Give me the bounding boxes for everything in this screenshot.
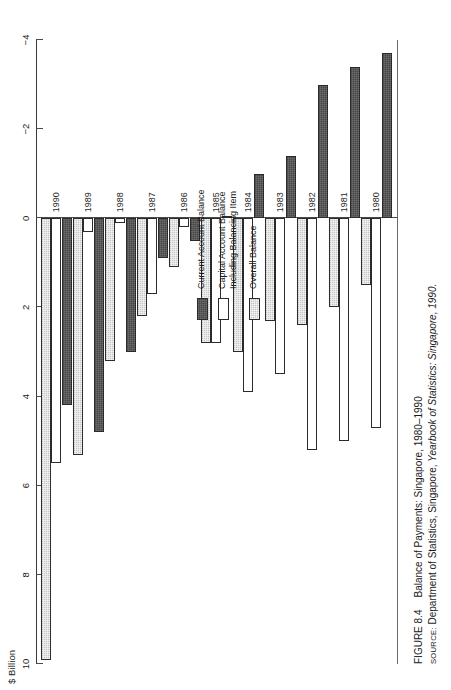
bar-capital-1986 (179, 218, 189, 227)
bar-group: 1988 (104, 40, 136, 664)
bar-group: 1981 (328, 40, 360, 664)
legend-label: Overall Balance (248, 225, 259, 289)
bar-current-1989 (94, 218, 104, 432)
category-label: 1986 (179, 192, 189, 212)
axis-tick-label: 0 (20, 216, 31, 221)
bar-current-1982 (318, 85, 328, 219)
bar-capital-1981 (339, 218, 349, 441)
category-label: 1987 (147, 192, 157, 212)
bar-current-1990 (62, 218, 72, 405)
bar-capital-1982 (307, 218, 317, 450)
bar-overall-1981 (329, 218, 339, 307)
caption-title-line: FIGURE 8.4Balance of Payments: Singapore… (412, 44, 426, 664)
category-label: 1990 (51, 192, 61, 212)
legend-item-capital: Capital Account Balance Including Balanc… (217, 90, 239, 320)
bar-capital-1988 (115, 218, 125, 222)
category-label: 1980 (371, 192, 381, 212)
axis-tick-label: 10 (20, 659, 31, 670)
bar-capital-1990 (51, 218, 61, 463)
source-text-italic: Yearbook of Statistics: Singapore, 1990. (427, 284, 438, 462)
rotated-figure-stage: $ Billion 1086420−2−4 198019811982198319… (0, 0, 451, 690)
bar-group: 1990 (40, 40, 72, 664)
chart-legend: Current Account BalanceCapital Account B… (196, 90, 269, 320)
bar-capital-1983 (275, 218, 285, 374)
bar-overall-1989 (73, 218, 83, 454)
caption-number: FIGURE 8.4 (413, 610, 424, 664)
bar-group: 1982 (296, 40, 328, 664)
bar-group: 1989 (72, 40, 104, 664)
bar-overall-1988 (105, 218, 115, 361)
source-text: Department of Statistics, Singapore, (427, 462, 438, 625)
bar-current-1980 (382, 53, 392, 218)
axis-title: $ Billion (6, 650, 17, 684)
bar-current-1981 (350, 67, 360, 219)
bar-capital-1987 (147, 218, 157, 294)
bar-overall-1986 (169, 218, 179, 267)
legend-label: Current Account Balance (196, 189, 207, 289)
bar-overall-1987 (137, 218, 147, 316)
category-label: 1982 (307, 192, 317, 212)
bar-overall-1982 (297, 218, 307, 325)
value-axis-line (36, 40, 37, 664)
bar-current-1983 (286, 156, 296, 218)
legend-swatch-current (197, 298, 208, 320)
caption-title: Balance of Payments: Singapore, 1980–199… (413, 396, 424, 597)
bar-capital-1989 (83, 218, 93, 231)
category-label: 1983 (275, 192, 285, 212)
bar-current-1987 (158, 218, 168, 258)
axis-tick-label: 8 (20, 572, 31, 577)
axis-tick-label: −2 (20, 124, 31, 135)
bar-overall-1990 (41, 218, 51, 659)
caption-source-line: SOURCE: Department of Statistics, Singap… (426, 44, 441, 664)
axis-tick-label: 6 (20, 483, 31, 488)
axis-tick-label: 2 (20, 305, 31, 310)
bar-current-1988 (126, 218, 136, 352)
bar-group: 1987 (136, 40, 168, 664)
legend-swatch-capital (218, 298, 229, 320)
axis-tick-label: 4 (20, 394, 31, 399)
source-label: SOURCE: (429, 627, 438, 664)
bar-group: 1980 (360, 40, 392, 664)
figure-8-4: $ Billion 1086420−2−4 198019811982198319… (0, 0, 451, 690)
category-label: 1981 (339, 192, 349, 212)
bar-capital-1980 (371, 218, 381, 427)
bar-overall-1980 (361, 218, 371, 285)
category-label: 1988 (115, 192, 125, 212)
axis-tick-label: −4 (20, 35, 31, 46)
category-label: 1989 (83, 192, 93, 212)
legend-item-overall: Overall Balance (248, 90, 260, 320)
legend-item-current: Current Account Balance (196, 90, 208, 320)
figure-caption: FIGURE 8.4Balance of Payments: Singapore… (412, 44, 441, 664)
legend-swatch-overall (249, 298, 260, 320)
legend-label: Capital Account Balance Including Balanc… (217, 191, 239, 289)
